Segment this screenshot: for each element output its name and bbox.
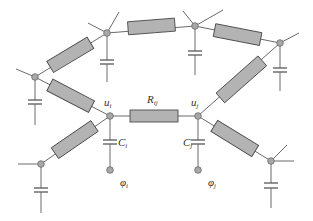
resistors bbox=[47, 18, 267, 158]
label-phi-i: φi bbox=[120, 177, 128, 190]
node-C bbox=[277, 40, 284, 47]
resistor-right-diagonal bbox=[216, 56, 267, 103]
label-C-i-sub: i bbox=[125, 142, 127, 150]
resistor-upper-right bbox=[213, 24, 262, 46]
node-E bbox=[38, 161, 45, 168]
terminal-phi-j bbox=[195, 167, 202, 174]
label-phi-j: φj bbox=[208, 177, 216, 190]
node-F bbox=[268, 158, 275, 165]
resistor-lower-right bbox=[211, 120, 259, 156]
label-phi-j-sub: j bbox=[214, 182, 216, 190]
node-uj bbox=[195, 113, 202, 120]
label-u-i-sub: i bbox=[110, 102, 112, 110]
label-C-j-sub: j bbox=[190, 142, 192, 150]
resistor-upper-left bbox=[47, 37, 94, 72]
label-C-i: Ci bbox=[118, 137, 127, 150]
node-D bbox=[32, 74, 39, 81]
rc-network-diagram: ui uj Rij Ci Cj φi φj bbox=[0, 0, 313, 221]
label-u-j-sub: j bbox=[197, 102, 199, 110]
circuit-graphic bbox=[0, 0, 313, 221]
label-R-ij: Rij bbox=[147, 94, 158, 107]
node-A bbox=[104, 30, 111, 37]
label-phi-i-sub: i bbox=[126, 182, 128, 190]
resistor-left bbox=[47, 79, 95, 112]
resistor-Rij bbox=[130, 110, 178, 122]
node-B bbox=[192, 23, 199, 30]
label-u-i: ui bbox=[104, 97, 111, 110]
label-C-j: Cj bbox=[183, 137, 192, 150]
label-u-j: uj bbox=[191, 97, 198, 110]
label-R-ij-main: R bbox=[147, 93, 154, 105]
terminal-phi-i bbox=[107, 167, 114, 174]
resistor-lower-left bbox=[51, 121, 98, 159]
node-ui bbox=[107, 113, 114, 120]
resistor-top bbox=[128, 18, 176, 35]
label-R-ij-sub: ij bbox=[154, 99, 158, 107]
